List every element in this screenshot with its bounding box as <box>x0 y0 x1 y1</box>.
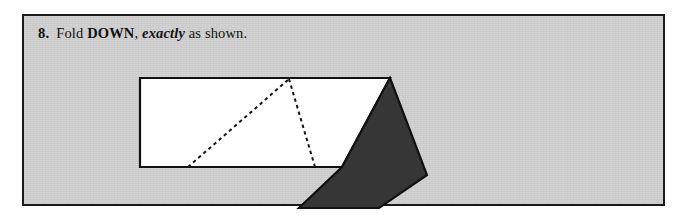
origami-fold-step-diagram <box>24 16 667 208</box>
instruction-panel: 8.Fold DOWN, exactly as shown. <box>22 14 665 206</box>
screenshot-root: 8.Fold DOWN, exactly as shown. <box>0 0 681 222</box>
